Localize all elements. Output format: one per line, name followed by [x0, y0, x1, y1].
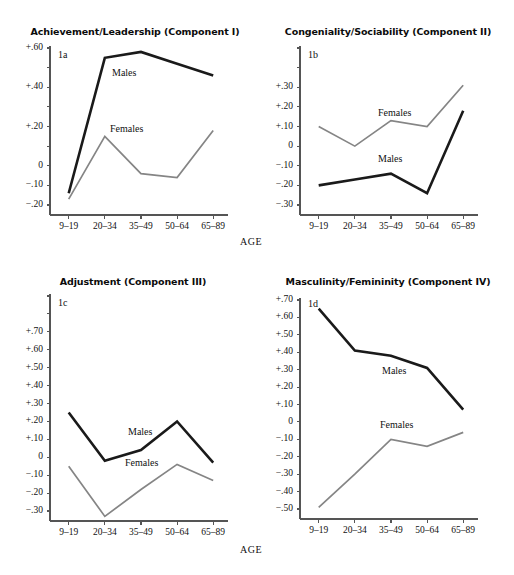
y-tick-label: −.10 [260, 161, 293, 171]
y-tick-label: −.20 [260, 180, 293, 190]
y-tick-label: +.10 [260, 122, 293, 132]
y-tick-label: +.70 [10, 327, 43, 337]
panel-code-1c: 1c [58, 297, 67, 308]
y-tick-label: +.40 [10, 82, 43, 92]
x-tick-label: 65–89 [191, 222, 235, 232]
series-line-males-1b [319, 111, 464, 193]
plot-1c [0, 0, 514, 575]
series-line-females-1c [69, 464, 214, 516]
x-axis-title-bottom: AGE [240, 544, 262, 555]
series-label-males: Males [382, 366, 406, 376]
y-tick-label: 0 [10, 452, 43, 462]
series-line-males-1d [319, 309, 464, 410]
series-label-females: Females [380, 420, 413, 430]
y-tick-label: +.70 [260, 295, 293, 305]
series-label-males: Males [112, 68, 136, 78]
y-tick-label: −.40 [260, 487, 293, 497]
panel-title-1a: Achievement/Leadership (Component I) [20, 26, 250, 37]
y-tick-label: +.10 [10, 434, 43, 444]
panel-code-1d: 1d [308, 298, 318, 309]
y-tick-label: +.60 [260, 312, 293, 322]
y-tick-label: 0 [260, 417, 293, 427]
y-tick-label: +.20 [10, 122, 43, 132]
series-label-females: Females [378, 108, 411, 118]
y-tick-label: +.40 [260, 347, 293, 357]
y-tick-label: +.40 [10, 381, 43, 391]
y-tick-label: +.50 [260, 330, 293, 340]
x-axis-title-top: AGE [240, 236, 262, 247]
y-tick-label: −.10 [10, 180, 43, 190]
y-tick-label: −.30 [10, 506, 43, 516]
panel-title-1d: Masculinity/Femininity (Component IV) [268, 276, 508, 287]
y-tick-label: +.30 [10, 399, 43, 409]
x-tick-label: 65–89 [441, 526, 485, 536]
plot-1d [0, 0, 514, 575]
plot-1a [0, 0, 514, 575]
y-tick-label: +.10 [260, 400, 293, 410]
y-tick-label: 0 [10, 161, 43, 171]
x-tick-label: 65–89 [191, 528, 235, 538]
y-tick-label: −.20 [10, 200, 43, 210]
y-tick-label: +.20 [260, 382, 293, 392]
y-tick-label: +.30 [260, 82, 293, 92]
series-line-males-1c [69, 412, 214, 462]
y-tick-label: −.30 [260, 200, 293, 210]
y-tick-label: +.60 [10, 43, 43, 53]
y-tick-label: +.60 [10, 345, 43, 355]
y-tick-label: −.30 [260, 469, 293, 479]
panel-code-1b: 1b [308, 49, 318, 60]
y-tick-label: +.30 [260, 365, 293, 375]
series-label-females: Females [110, 124, 143, 134]
plot-1b [0, 0, 514, 575]
series-label-females: Females [125, 458, 158, 468]
y-tick-label: −.10 [10, 470, 43, 480]
series-line-females-1d [319, 432, 464, 507]
y-tick-label: −.20 [260, 452, 293, 462]
y-tick-label: +.50 [10, 363, 43, 373]
x-tick-label: 65–89 [441, 222, 485, 232]
y-tick-label: −.10 [260, 434, 293, 444]
y-tick-label: −.20 [10, 488, 43, 498]
y-tick-label: −.50 [260, 504, 293, 514]
y-tick-label: +.20 [260, 102, 293, 112]
panel-title-1b: Congeniality/Sociability (Component II) [268, 26, 508, 37]
y-tick-label: +.20 [10, 416, 43, 426]
y-tick-label: 0 [260, 141, 293, 151]
series-label-males: Males [378, 154, 402, 164]
series-label-males: Males [128, 427, 152, 437]
panel-code-1a: 1a [58, 49, 67, 60]
figure-root: Achievement/Leadership (Component I)1a+.… [0, 0, 514, 575]
panel-title-1c: Adjustment (Component III) [18, 276, 248, 287]
series-line-females-1a [69, 130, 214, 199]
